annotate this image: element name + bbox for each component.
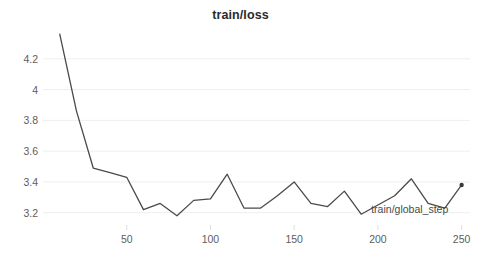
x-tick-label: 250 <box>453 233 471 245</box>
x-tick-label: 150 <box>285 233 303 245</box>
x-axis-title: train/global_step <box>371 203 448 215</box>
x-tick-label: 200 <box>369 233 387 245</box>
x-tick-label: 100 <box>202 233 220 245</box>
x-tick-label: 50 <box>121 233 133 245</box>
x-axis-tick-labels: 50100150200250 <box>0 0 481 262</box>
chart-container: train/loss 3.23.43.63.844.2 501001502002… <box>0 0 481 262</box>
